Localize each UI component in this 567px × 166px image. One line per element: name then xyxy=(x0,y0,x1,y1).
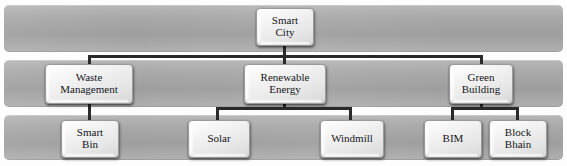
node-bim-label: BIM xyxy=(440,133,467,145)
node-windmill[interactable]: Windmill xyxy=(320,120,384,158)
node-bim[interactable]: BIM xyxy=(424,120,482,158)
node-smart-bin-label: SmartBin xyxy=(74,127,106,150)
node-block-bhain-label: BlockBhain xyxy=(502,127,534,150)
node-green-building-label: GreenBuilding xyxy=(459,72,504,95)
diagram-canvas: SmartCity WasteManagement RenewableEnerg… xyxy=(0,0,567,166)
connector-drop-solar xyxy=(216,107,219,120)
connector-drop-waste-management xyxy=(88,55,91,64)
node-smart-city[interactable]: SmartCity xyxy=(256,8,314,46)
connector-renewable-energy-bus xyxy=(216,107,352,110)
node-renewable-energy-label: RenewableEnergy xyxy=(258,72,313,95)
connector-drop-windmill xyxy=(349,107,352,120)
connector-drop-green-building xyxy=(480,55,483,64)
node-solar[interactable]: Solar xyxy=(188,120,250,158)
node-waste-management-label: WasteManagement xyxy=(57,72,120,95)
connector-green-building-bus xyxy=(451,107,519,110)
node-smart-bin[interactable]: SmartBin xyxy=(61,120,119,158)
connector-drop-renewable-energy xyxy=(283,55,286,64)
connector-drop-block-bhain xyxy=(516,107,519,120)
node-waste-management[interactable]: WasteManagement xyxy=(45,64,133,104)
node-smart-city-label: SmartCity xyxy=(269,15,301,38)
node-green-building[interactable]: GreenBuilding xyxy=(449,64,513,104)
node-block-bhain[interactable]: BlockBhain xyxy=(489,120,547,158)
node-windmill-label: Windmill xyxy=(328,133,376,145)
node-renewable-energy[interactable]: RenewableEnergy xyxy=(244,64,326,104)
connector-drop-bim xyxy=(451,107,454,120)
node-solar-label: Solar xyxy=(204,133,233,145)
